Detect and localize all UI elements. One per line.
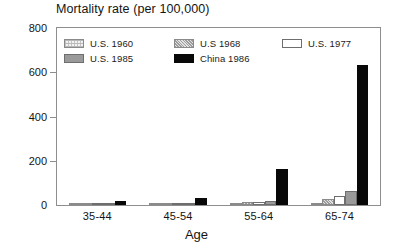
bar: [322, 199, 334, 205]
bar: [149, 203, 161, 205]
y-tick-mark: [50, 72, 56, 73]
bar: [311, 203, 323, 205]
legend-row: U.S. 1985China 1986: [64, 51, 364, 66]
legend-label: U.S 1968: [200, 38, 240, 49]
bar: [253, 202, 265, 205]
chart-root: Mortality rate (per 100,000) 02004006008…: [0, 0, 393, 248]
bar: [184, 203, 196, 205]
y-axis: 0200400600800: [0, 0, 56, 248]
y-tick-mark: [50, 117, 56, 118]
y-tick-label: 400: [29, 111, 47, 123]
legend-swatch-icon: [174, 54, 194, 63]
chart-title: Mortality rate (per 100,000): [56, 2, 210, 16]
x-tick-label: 45-54: [164, 210, 193, 222]
bar: [242, 202, 254, 205]
bar: [265, 201, 277, 205]
legend-label: U.S. 1960: [90, 38, 133, 49]
x-tick-label: 35-44: [83, 210, 112, 222]
x-tick-label: 55-64: [244, 210, 273, 222]
bar: [115, 201, 127, 205]
legend-entry: China 1986: [174, 51, 250, 66]
legend-swatch-icon: [174, 39, 194, 48]
legend-entry: U.S 1968: [174, 36, 240, 51]
legend-swatch-icon: [64, 54, 84, 63]
legend-row: U.S. 1960U.S 1968U.S. 1977: [64, 36, 364, 51]
bar: [172, 203, 184, 205]
chart-legend: U.S. 1960U.S 1968U.S. 1977U.S. 1985China…: [64, 36, 364, 66]
bar: [161, 203, 173, 205]
legend-entry: U.S. 1985: [64, 51, 133, 66]
bar: [230, 203, 242, 205]
legend-label: U.S. 1985: [90, 53, 133, 64]
y-tick-mark: [50, 161, 56, 162]
x-axis-title: Age: [0, 227, 393, 242]
y-tick-label: 200: [29, 155, 47, 167]
bar: [357, 65, 369, 205]
bar: [334, 196, 346, 205]
bar: [69, 203, 81, 205]
bar: [345, 191, 357, 205]
legend-entry: U.S. 1977: [282, 36, 351, 51]
y-tick-label: 0: [41, 199, 47, 211]
y-tick-label: 800: [29, 22, 47, 34]
bar: [92, 203, 104, 205]
bar: [195, 198, 207, 205]
legend-label: China 1986: [200, 53, 250, 64]
bar: [103, 203, 115, 205]
legend-swatch-icon: [282, 39, 302, 48]
y-tick-label: 600: [29, 66, 47, 78]
legend-entry: U.S. 1960: [64, 36, 133, 51]
bar: [276, 169, 288, 205]
legend-swatch-icon: [64, 39, 84, 48]
bar: [80, 203, 92, 205]
legend-label: U.S. 1977: [308, 38, 351, 49]
x-tick-label: 65-74: [325, 210, 354, 222]
